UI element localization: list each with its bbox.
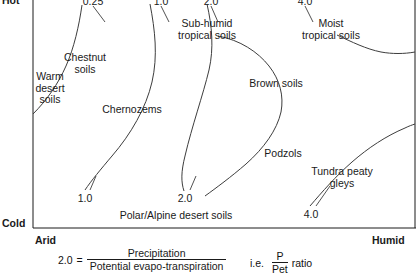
- top-tick-0: 0.25: [73, 0, 113, 7]
- note-denominator: Pet: [272, 262, 288, 274]
- bottom-tick-1: 2.0: [167, 192, 203, 204]
- axis-label-hot: Hot: [2, 0, 20, 7]
- soil-label-warm-desert-soils: Warm desert soils: [28, 71, 72, 106]
- soil-label-line: Sub-humid: [164, 18, 250, 30]
- note-tail: ratio: [292, 257, 312, 269]
- diagram-canvas: [0, 0, 416, 274]
- soil-classification-diagram: Hot Cold Arid Humid 0.25 1.0 2.0 4.0 1.0…: [0, 0, 416, 274]
- note-fraction: P Pet: [272, 250, 288, 274]
- bottom-tick-2: 4.0: [293, 208, 329, 220]
- curve-chestnut-chernozem-boundary: [85, 4, 155, 190]
- curve-subhumid-brown-boundary: [205, 36, 282, 196]
- note-numerator: P: [272, 250, 288, 262]
- top-tick-1: 1.0: [143, 0, 179, 7]
- note-lead: i.e.: [250, 257, 264, 269]
- soil-label-sub-humid-tropical-soils: Sub-humid tropical soils: [164, 18, 250, 41]
- soil-label-line: Chernozems: [96, 104, 168, 116]
- ratio-formula: 2.0 = Precipitation Potential evapo-tran…: [58, 247, 226, 272]
- soil-label-line: Polar/Alpine desert soils: [105, 210, 247, 222]
- soil-label-line: gleys: [302, 178, 382, 190]
- formula-value: 2.0: [58, 254, 73, 266]
- soil-label-chestnut-soils: Chestnut soils: [56, 52, 114, 75]
- soil-label-brown-soils: Brown soils: [240, 78, 312, 90]
- axis-label-humid: Humid: [372, 235, 405, 247]
- soil-label-tundra-peaty-gleys: Tundra peaty gleys: [302, 166, 382, 189]
- axis-label-cold: Cold: [2, 218, 25, 230]
- formula-numerator: Precipitation: [87, 247, 227, 259]
- soil-label-line: soils: [56, 64, 114, 76]
- top-tick-2: 2.0: [193, 0, 229, 7]
- soil-label-polar-alpine-desert-soils: Polar/Alpine desert soils: [105, 210, 247, 222]
- bottom-tick-0: 1.0: [67, 192, 103, 204]
- soil-label-line: Chestnut: [56, 52, 114, 64]
- soil-label-line: Brown soils: [240, 78, 312, 90]
- soil-label-line: tropical soils: [288, 30, 374, 42]
- bottom-tick-leaders: [90, 176, 330, 206]
- soil-label-line: Moist: [288, 18, 374, 30]
- soil-label-line: tropical soils: [164, 30, 250, 42]
- soil-label-chernozems: Chernozems: [96, 104, 168, 116]
- formula-equals: =: [77, 254, 83, 266]
- axis-label-arid: Arid: [35, 235, 56, 247]
- soil-label-line: Podzols: [255, 148, 311, 160]
- formula-denominator: Potential evapo-transpiration: [87, 259, 227, 272]
- top-tick-3: 4.0: [287, 0, 323, 7]
- soil-label-line: Tundra peaty: [302, 166, 382, 178]
- ratio-note: i.e. P Pet ratio: [250, 250, 312, 274]
- soil-label-moist-tropical-soils: Moist tropical soils: [288, 18, 374, 41]
- soil-label-line: soils: [28, 94, 72, 106]
- formula-fraction: Precipitation Potential evapo-transpirat…: [87, 247, 227, 272]
- soil-label-podzols: Podzols: [255, 148, 311, 160]
